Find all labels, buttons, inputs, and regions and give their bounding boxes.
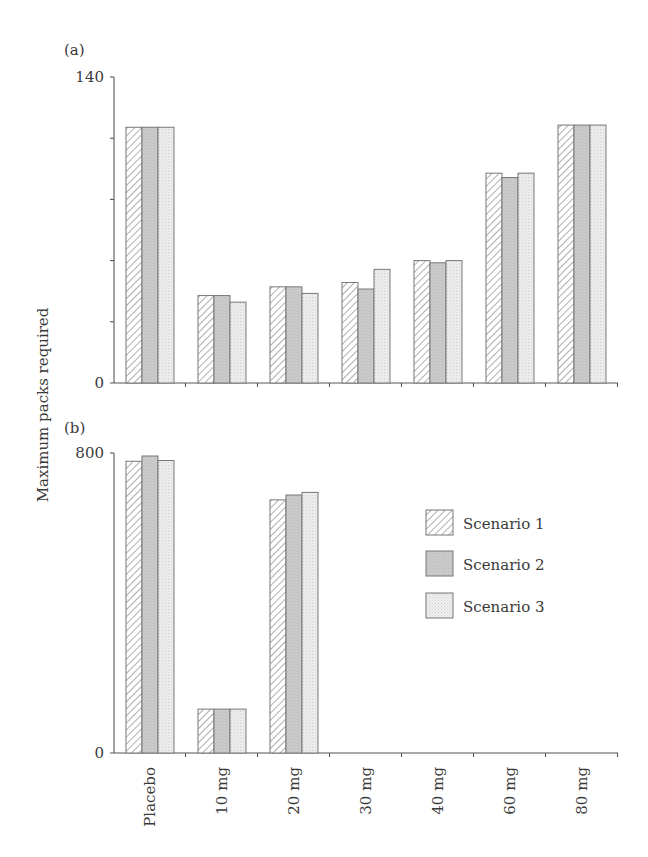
x-tick-label: 30 mg <box>357 767 375 815</box>
x-tick-label: 40 mg <box>429 767 447 815</box>
bar-scenario-2 <box>286 287 302 383</box>
x-axis-labels: Placebo10 mg20 mg30 mg40 mg60 mg80 mg <box>141 767 591 827</box>
bar-scenario-2 <box>142 127 158 383</box>
y-axis-title: Maximum packs required <box>34 307 52 502</box>
bar-scenario-2 <box>502 178 518 383</box>
bar-scenario-3 <box>302 492 318 753</box>
bar-scenario-1 <box>414 261 430 383</box>
bar-scenario-1 <box>342 282 358 383</box>
bar-scenario-3 <box>302 293 318 383</box>
bar-scenario-3 <box>230 709 246 753</box>
bar-scenario-2 <box>214 709 230 753</box>
bar-scenario-1 <box>558 125 574 383</box>
bar-scenario-3 <box>158 461 174 754</box>
y-tick-label: 800 <box>75 444 104 462</box>
panel-b-label: (b) <box>64 419 85 437</box>
bar-scenario-1 <box>198 296 214 383</box>
legend-item-scenario-2: Scenario 2 <box>426 551 544 576</box>
bar-scenario-3 <box>518 173 534 383</box>
panel-a-label: (a) <box>64 41 85 59</box>
legend-label: Scenario 2 <box>463 556 544 574</box>
x-tick-label: 80 mg <box>573 767 591 815</box>
gray-swatch-icon <box>426 551 453 576</box>
bar-chart-figure: (a) (b) Maximum packs required 0140 0800… <box>0 0 648 857</box>
bar-scenario-2 <box>286 495 302 753</box>
dots-swatch-icon <box>426 593 453 618</box>
legend-label: Scenario 1 <box>463 515 544 533</box>
bar-scenario-3 <box>230 302 246 383</box>
x-tick-label: 10 mg <box>213 767 231 815</box>
panel-a-plot: 0140 <box>75 68 618 392</box>
legend-label: Scenario 3 <box>463 598 544 616</box>
bar-scenario-1 <box>126 127 142 383</box>
legend-item-scenario-1: Scenario 1 <box>426 510 544 535</box>
bar-scenario-2 <box>142 456 158 753</box>
bar-scenario-2 <box>430 263 446 383</box>
hatch-swatch-icon <box>426 510 453 535</box>
bar-scenario-1 <box>198 709 214 753</box>
x-tick-label: 60 mg <box>501 767 519 815</box>
bar-scenario-3 <box>446 261 462 383</box>
bar-scenario-1 <box>126 461 142 753</box>
x-tick-label: Placebo <box>141 767 159 827</box>
bar-scenario-1 <box>270 500 286 753</box>
bar-scenario-3 <box>374 269 390 383</box>
x-tick-label: 20 mg <box>285 767 303 815</box>
y-tick-label: 140 <box>75 68 104 86</box>
legend-item-scenario-3: Scenario 3 <box>426 593 544 618</box>
bar-scenario-2 <box>574 125 590 383</box>
bar-scenario-3 <box>158 127 174 383</box>
bar-scenario-2 <box>358 289 374 383</box>
figure: (a) (b) Maximum packs required 0140 0800… <box>0 0 648 857</box>
legend: Scenario 1 Scenario 2 Scenario 3 <box>426 510 544 618</box>
bar-scenario-1 <box>486 173 502 383</box>
bar-scenario-3 <box>590 125 606 383</box>
y-tick-label: 0 <box>94 374 104 392</box>
y-tick-label: 0 <box>94 744 104 762</box>
bar-scenario-2 <box>214 296 230 383</box>
bar-scenario-1 <box>270 287 286 383</box>
